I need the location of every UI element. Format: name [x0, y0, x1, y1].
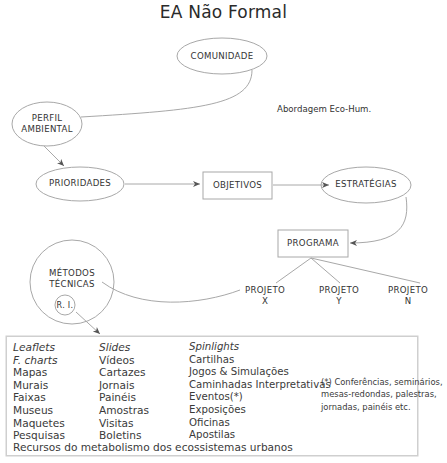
projeto-n-label: PROJETO N [383, 285, 433, 307]
footnote-line1: (*) Conferências, seminários, [321, 376, 443, 388]
resource-item: Museus [13, 404, 65, 417]
resources-column-2: Slides Vídeos Cartazes Jornais Painéis A… [99, 341, 149, 442]
resource-item: Murais [13, 379, 65, 392]
estrategias-label: ESTRATÉGIAS [321, 179, 411, 190]
metodos-label: MÉTODOS TÉCNICAS [32, 268, 112, 290]
resource-item: Boletins [99, 429, 149, 442]
objetivos-label: OBJETIVOS [203, 180, 272, 191]
projeto-y-label: PROJETO Y [314, 285, 364, 307]
resource-item: Spinlights [189, 341, 331, 354]
resource-item: Painéis [99, 391, 149, 404]
perfil-label: PERFIL AMBIENTAL [12, 113, 82, 135]
resource-item: Oficinas [189, 417, 331, 430]
footnote: (*) Conferências, seminários, mesas-redo… [321, 376, 443, 413]
resource-item: F. charts [13, 354, 65, 367]
projeto-n-line2: N [383, 296, 433, 307]
metodos-label-line2: TÉCNICAS [32, 279, 112, 290]
programa-label: PROGRAMA [278, 238, 348, 249]
footnote-line3: jornadas, painéis etc. [321, 401, 443, 413]
resource-item: Faixas [13, 391, 65, 404]
ri-label: R. I. [55, 300, 75, 311]
resource-item: Caminhadas Interpretativas [189, 379, 331, 392]
footnote-line2: mesas-redondas, palestras, [321, 388, 443, 400]
resource-item: Cartazes [99, 366, 149, 379]
resource-item: Jogos & Simulações [189, 366, 331, 379]
comunidade-label: COMUNIDADE [177, 51, 267, 62]
perfil-label-line1: PERFIL [12, 113, 82, 124]
projeto-y-line1: PROJETO [314, 285, 364, 296]
projeto-y-line2: Y [314, 296, 364, 307]
projeto-x-label: PROJETO X [240, 285, 290, 307]
resource-item: Maquetes [13, 417, 65, 430]
resource-item: Slides [99, 341, 149, 354]
metodos-label-line1: MÉTODOS [32, 268, 112, 279]
approach-note: Abordagem Eco-Hum. [277, 104, 371, 114]
resource-item: Exposições [189, 404, 331, 417]
resources-footer: Recursos do metabolismo dos ecossistemas… [13, 441, 293, 453]
resource-item: Vídeos [99, 354, 149, 367]
prioridades-label: PRIORIDADES [36, 178, 124, 189]
resources-column-1: Leaflets F. charts Mapas Murais Faixas M… [13, 341, 65, 442]
resource-item: Mapas [13, 366, 65, 379]
resource-item: Eventos(*) [189, 391, 331, 404]
resource-item: Leaflets [13, 341, 65, 354]
resources-column-3: Spinlights Cartilhas Jogos & Simulações … [189, 341, 331, 442]
resource-item: Pesquisas [13, 429, 65, 442]
projeto-x-line2: X [240, 296, 290, 307]
resource-item: Amostras [99, 404, 149, 417]
projeto-n-line1: PROJETO [383, 285, 433, 296]
perfil-label-line2: AMBIENTAL [12, 124, 82, 135]
resource-item: Apostilas [189, 429, 331, 442]
projeto-x-line1: PROJETO [240, 285, 290, 296]
resource-item: Cartilhas [189, 354, 331, 367]
resource-item: Jornais [99, 379, 149, 392]
resource-item: Visitas [99, 417, 149, 430]
